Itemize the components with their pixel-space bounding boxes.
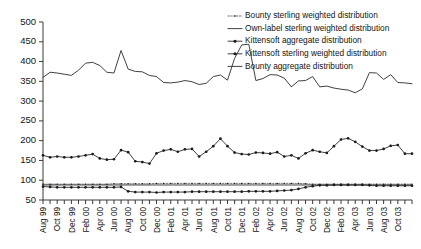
x-tick-label: Jun 01 [195, 207, 204, 232]
x-tick-label: Apr 02 [266, 207, 275, 232]
series-marker [361, 184, 364, 187]
series-marker [77, 186, 80, 189]
series-marker [276, 190, 279, 193]
x-tick-label: Apr 00 [96, 207, 105, 232]
series-marker [198, 183, 200, 185]
series-marker [284, 183, 286, 185]
series-marker [361, 145, 364, 148]
series-marker [220, 183, 222, 185]
legend-item-1[interactable]: Bounty sterling weighted distribution [228, 10, 378, 20]
series-marker [333, 145, 336, 148]
series-marker [247, 153, 250, 156]
series-line [43, 138, 412, 163]
series-marker [127, 190, 130, 193]
series-marker [255, 151, 258, 154]
series-marker [77, 155, 80, 158]
series-marker [318, 184, 321, 187]
x-tick-label: Feb 03 [337, 207, 346, 233]
series-marker [134, 160, 137, 163]
series-marker [162, 149, 165, 152]
legend-label: Bounty aggregate distribution [245, 61, 353, 71]
series-marker [184, 148, 187, 151]
series-marker [91, 153, 94, 156]
x-tick-label: Oct 03 [394, 207, 403, 232]
series-marker [98, 157, 101, 160]
series-marker [84, 186, 87, 189]
series-marker [219, 137, 222, 140]
series-marker [304, 186, 307, 189]
legend-item-5[interactable]: Bounty aggregate distribution [228, 61, 353, 71]
x-tick-label: Dec 00 [153, 207, 162, 233]
series-marker [368, 149, 371, 152]
series-marker [169, 191, 172, 194]
series-marker [148, 162, 151, 165]
series-marker [226, 145, 229, 148]
series-marker [176, 191, 179, 194]
series-marker [326, 152, 329, 155]
series-marker [42, 185, 45, 188]
series-marker [227, 183, 229, 185]
series-marker [198, 155, 201, 158]
y-tick-label: 100 [20, 174, 36, 185]
series-marker [389, 144, 392, 147]
series-marker [226, 190, 229, 193]
series-marker [163, 183, 165, 185]
legend-item-2[interactable]: Own-label sterling weighted distribution [228, 23, 390, 33]
y-tick-label: 250 [20, 114, 36, 125]
x-tick-label: Feb 00 [82, 207, 91, 233]
legend-item-3[interactable]: Kittensoft aggregate distribution [228, 35, 362, 45]
series-marker [42, 154, 45, 157]
series-marker [113, 183, 115, 185]
legend-swatch-marker [234, 15, 236, 17]
series-marker [404, 184, 407, 187]
x-tick-label: Dec 01 [238, 207, 247, 233]
series-marker [262, 190, 265, 193]
series-marker [318, 150, 321, 153]
series-marker [156, 183, 158, 185]
series-marker [255, 190, 258, 193]
series-marker [311, 185, 314, 188]
series-marker [276, 151, 279, 154]
series-marker [389, 184, 392, 187]
series-marker [276, 183, 278, 185]
series-marker [141, 161, 144, 164]
x-tick-label: Oct 02 [309, 207, 318, 232]
series-marker [283, 189, 286, 192]
series-marker [106, 158, 109, 161]
series-marker [396, 184, 399, 187]
series-marker [191, 148, 194, 151]
series-marker [176, 150, 179, 153]
series-marker [396, 144, 399, 147]
series-marker [290, 189, 293, 192]
series-marker [240, 153, 243, 156]
series-marker [375, 149, 378, 152]
series-marker [333, 184, 336, 187]
series-marker [240, 190, 243, 193]
series-marker [127, 151, 130, 154]
series-marker [148, 191, 151, 194]
x-tick-label: Oct 99 [53, 207, 62, 232]
x-tick-label: Jun 00 [110, 207, 119, 232]
y-tick-label: 350 [20, 75, 36, 86]
series-marker [162, 191, 165, 194]
series-marker [63, 156, 66, 159]
series-marker [233, 190, 236, 193]
series-marker [198, 190, 201, 193]
series-marker [70, 186, 73, 189]
series-marker [142, 183, 144, 185]
x-tick-label: Aug 03 [380, 207, 389, 233]
x-tick-label: Dec 02 [323, 207, 332, 233]
series-marker [297, 157, 300, 160]
legend-swatch-marker [234, 40, 237, 43]
legend-item-4[interactable]: Kittensoft sterling weighted distributio… [228, 48, 387, 58]
series-marker [120, 149, 123, 152]
x-tick-label: Aug 02 [295, 207, 304, 233]
series-marker [340, 184, 343, 187]
series-marker [248, 183, 250, 185]
series-marker [155, 152, 158, 155]
series-marker [141, 191, 144, 194]
line-chart: 50100150200250300350400450500Aug 99Oct 9… [0, 0, 421, 249]
series-marker [56, 155, 59, 158]
series-marker [212, 190, 215, 193]
series-marker [191, 183, 193, 185]
